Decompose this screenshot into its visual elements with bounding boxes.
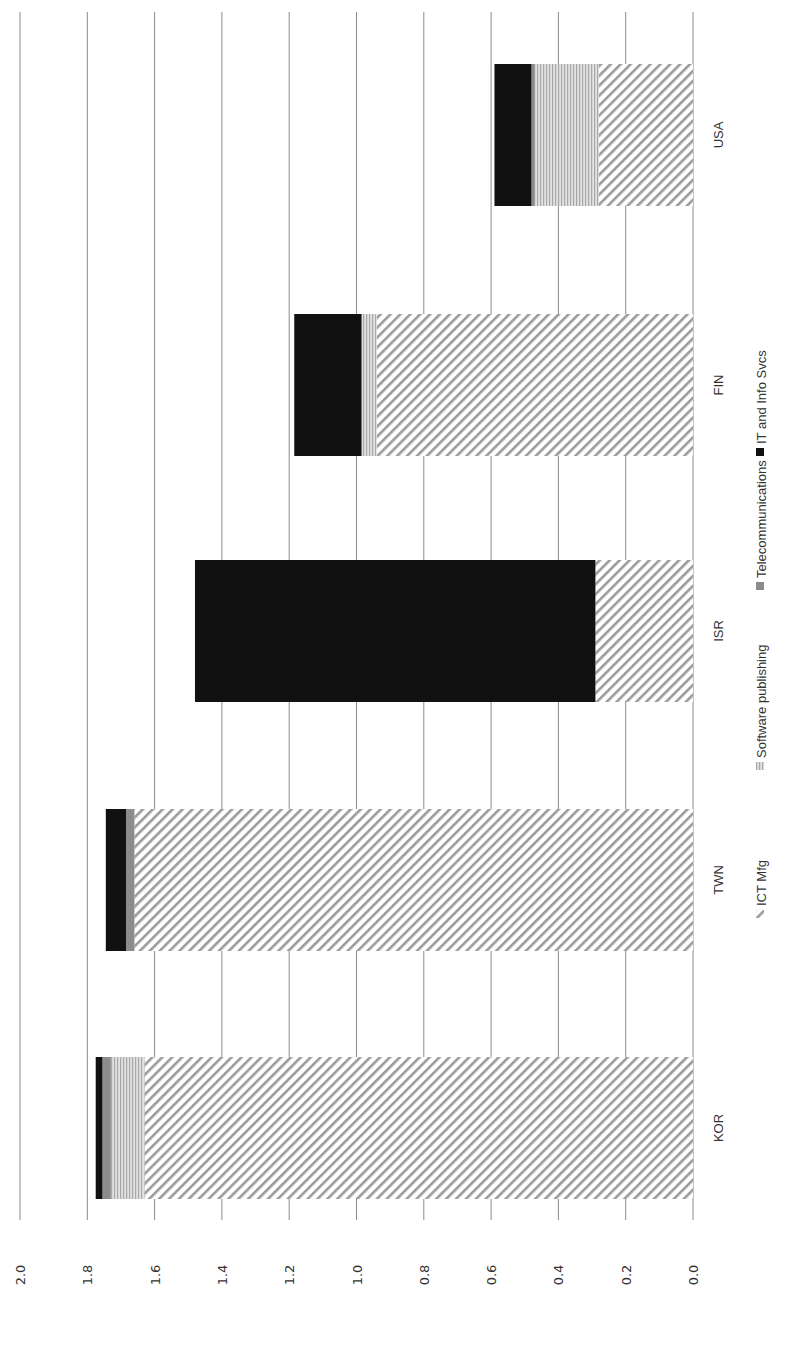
bar-segment-it-and-info-svcs [106,809,126,951]
legend: ICT MfgSoftware publishingTelecommunicat… [754,350,769,918]
tick-label: 1.8 [80,1265,95,1286]
bar-segment-it-and-info-svcs [294,314,361,456]
tick-label: 0.4 [551,1265,566,1286]
legend-swatch-icon [756,910,764,918]
bars [96,64,693,1199]
bar-segment-software-publishing [535,64,599,206]
bar-segment-it-and-info-svcs [195,560,595,702]
bar-segment-telecommunications [126,809,134,951]
legend-label: Telecommunications [754,460,769,578]
tick-label: 2.0 [13,1265,28,1286]
legend-label: IT and Info Svcs [754,350,769,444]
tick-label: 1.6 [148,1265,163,1286]
bar-segment-ict-mfg [599,64,693,206]
category-label: KOR [711,1114,726,1142]
bar-segment-ict-mfg [145,1057,693,1199]
legend-swatch-icon [756,448,764,456]
bar-segment-ict-mfg [377,314,693,456]
tick-label: 1.4 [215,1265,230,1286]
bar-segment-ict-mfg [595,560,693,702]
bar-segment-it-and-info-svcs [96,1057,103,1199]
category-label: TWN [711,865,726,895]
bar-segment-it-and-info-svcs [494,64,531,206]
category-label: ISR [711,620,726,642]
bar-segment-telecommunications [102,1057,110,1199]
tick-label: 1.0 [350,1265,365,1286]
bar-segment-software-publishing [111,1057,145,1199]
legend-swatch-icon [756,582,764,590]
category-axis-labels: KORTWNISRFINUSA [711,121,726,1142]
bar-segment-software-publishing [362,314,377,456]
category-label: FIN [711,375,726,396]
tick-label: 0.6 [484,1265,499,1286]
legend-label: Software publishing [754,645,769,758]
tick-label: 1.2 [282,1265,297,1286]
tick-label: 0.2 [619,1265,634,1286]
category-label: USA [711,121,726,148]
legend-label: ICT Mfg [754,860,769,906]
legend-swatch-icon [756,762,764,770]
tick-label: 0.8 [417,1265,432,1286]
value-axis-ticks: 0.00.20.40.60.81.01.21.41.61.82.0 [13,1265,701,1286]
stacked-bar-chart: 0.00.20.40.60.81.01.21.41.61.82.0 KORTWN… [0,0,799,1348]
tick-label: 0.0 [686,1265,701,1286]
bar-segment-telecommunications [531,64,534,206]
bar-segment-ict-mfg [134,809,693,951]
